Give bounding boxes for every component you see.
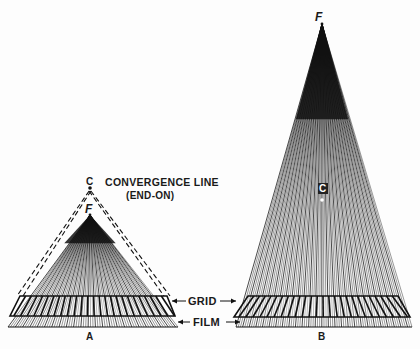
panel-b-focal-label: F — [315, 10, 323, 24]
panel-a-focal-label: F — [85, 202, 93, 216]
panel-a-caption: A — [86, 331, 94, 342]
panel-b-grid — [234, 296, 410, 317]
grid-arrow-left-head — [172, 299, 177, 304]
panel-b-grid-strip — [316, 296, 317, 317]
panel-a-convergence-point-label: C — [86, 176, 94, 187]
convergence-line-label: CONVERGENCE LINE — [105, 176, 219, 188]
grid-arrow-right-head — [231, 299, 236, 304]
panel-b-convergence-point-label: C — [318, 183, 328, 194]
panel-b-focal-cone — [296, 24, 349, 119]
grid-label: GRID — [188, 295, 217, 307]
film-label: FILM — [193, 316, 220, 328]
panel-b-convergence-point — [320, 198, 324, 202]
panel-a-grid-strip — [94, 296, 95, 316]
panel-b-caption: B — [318, 331, 326, 342]
diagram-canvas: C CONVERGENCE LINE (END-ON) F A F C B GR… — [0, 0, 420, 349]
film-arrow-left-head — [178, 320, 183, 325]
convergence-line-sublabel: (END-ON) — [126, 190, 175, 201]
